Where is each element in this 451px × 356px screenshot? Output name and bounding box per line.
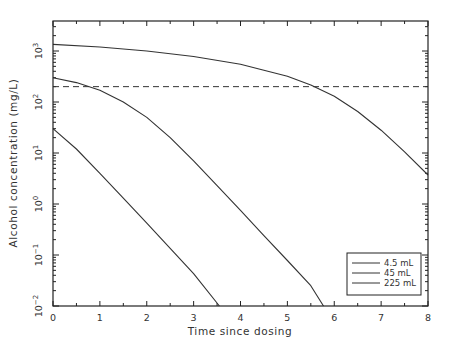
y-tick-label: 10−2 xyxy=(32,295,44,317)
x-tick-label: 8 xyxy=(425,312,431,323)
series-line-225-ml xyxy=(53,44,428,175)
x-tick-labels: 012345678 xyxy=(50,312,431,323)
y-axis-title: Alcohol concentration (mg/L) xyxy=(7,79,19,248)
y-tick-label: 100 xyxy=(32,196,44,213)
x-tick-label: 2 xyxy=(144,312,150,323)
legend: 4.5 mL 45 mL 225 mL xyxy=(347,253,421,295)
x-tick-label: 5 xyxy=(284,312,290,323)
series-line-45-ml xyxy=(53,78,324,306)
svg-text:101: 101 xyxy=(32,145,44,162)
x-tick-label: 7 xyxy=(378,312,384,323)
svg-text:10−1: 10−1 xyxy=(32,244,44,266)
concentration-chart: 012345678 10−210−1100101102103 Time sinc… xyxy=(0,0,451,356)
x-axis-title: Time since dosing xyxy=(187,325,293,337)
legend-label: 225 mL xyxy=(384,278,416,288)
x-tick-label: 1 xyxy=(97,312,103,323)
y-tick-label: 101 xyxy=(32,145,44,162)
x-tick-label: 4 xyxy=(237,312,243,323)
series-line-4-5-ml xyxy=(53,129,219,306)
svg-text:102: 102 xyxy=(32,94,44,111)
svg-text:10−2: 10−2 xyxy=(32,295,44,317)
svg-text:100: 100 xyxy=(32,196,44,213)
y-tick-label: 102 xyxy=(32,94,44,111)
legend-label: 45 mL xyxy=(384,268,411,278)
y-tick-labels: 10−210−1100101102103 xyxy=(32,43,44,317)
x-tick-label: 3 xyxy=(191,312,197,323)
svg-text:103: 103 xyxy=(32,43,44,60)
legend-label: 4.5 mL xyxy=(384,258,413,268)
y-tick-label: 103 xyxy=(32,43,44,60)
x-tick-label: 6 xyxy=(331,312,337,323)
x-tick-label: 0 xyxy=(50,312,56,323)
y-tick-label: 10−1 xyxy=(32,244,44,266)
